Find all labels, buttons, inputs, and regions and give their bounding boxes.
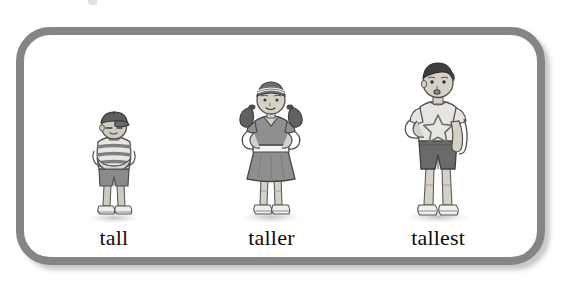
panel-interior: tall [24, 35, 537, 257]
figure-label-tall: tall [99, 227, 128, 249]
figure-row: tall [24, 35, 537, 257]
figure-item-tall: tall [77, 106, 151, 249]
figure-item-taller: taller [228, 79, 314, 249]
figure-label-taller: taller [248, 227, 294, 249]
boy-short-illustration [77, 106, 151, 224]
girl-medium-illustration [228, 79, 314, 224]
figure-item-tallest: tallest [392, 61, 484, 249]
boy-tall-illustration [392, 61, 484, 224]
figure-label-tallest: tallest [411, 227, 465, 249]
illustration-panel: tall [16, 27, 545, 265]
crop-artifact [88, 0, 97, 5]
